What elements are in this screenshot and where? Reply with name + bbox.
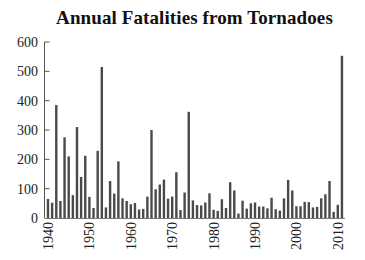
x-tick-label: 2010 [331, 222, 346, 250]
bar-1948 [80, 177, 82, 218]
bar-1966 [154, 189, 156, 218]
x-axis-labels: 19401950196019701980199020002010 [41, 222, 346, 250]
bar-1950 [88, 197, 90, 218]
bar-1992 [262, 207, 264, 218]
bar-1984 [229, 182, 231, 218]
bar-1940 [47, 199, 49, 218]
bar-1945 [68, 156, 70, 218]
bar-1983 [225, 208, 227, 218]
x-tick-label: 1950 [82, 222, 97, 250]
bar-1993 [266, 208, 268, 218]
bar-1956 [113, 194, 115, 218]
bar-1962 [138, 209, 140, 218]
bar-1985 [233, 190, 235, 218]
bar-1979 [208, 193, 210, 218]
y-tick-label: 200 [17, 152, 38, 167]
bar-1976 [196, 205, 198, 218]
bar-1943 [59, 201, 61, 218]
bar-1978 [204, 202, 206, 218]
bar-1995 [275, 209, 277, 218]
bar-1999 [291, 190, 293, 218]
x-tick-label: 1970 [165, 222, 180, 250]
axes [45, 42, 345, 219]
y-axis-labels: 0100200300400500600 [17, 35, 38, 226]
bar-2006 [320, 198, 322, 218]
bar-1969 [167, 199, 169, 218]
bar-1959 [125, 201, 127, 218]
x-tick-label: 1990 [248, 222, 263, 250]
bar-1971 [175, 172, 177, 218]
bar-1946 [72, 195, 74, 218]
bar-1997 [283, 198, 285, 218]
bar-1974 [188, 112, 190, 218]
bar-1990 [254, 202, 256, 218]
y-tick-label: 600 [17, 35, 38, 50]
bar-1958 [121, 198, 123, 218]
y-tick-label: 0 [31, 211, 38, 226]
bar-1941 [51, 203, 53, 218]
x-tick-label: 2000 [289, 222, 304, 250]
bar-1949 [84, 156, 86, 218]
bar-1998 [287, 180, 289, 218]
bar-1947 [76, 127, 78, 218]
x-tick-label: 1980 [207, 222, 222, 250]
bar-1960 [130, 204, 132, 218]
bar-2000 [295, 206, 297, 218]
bar-1970 [171, 197, 173, 218]
bar-1964 [146, 197, 148, 218]
y-tick-label: 400 [17, 94, 38, 109]
bar-1965 [150, 130, 152, 218]
bar-1953 [101, 67, 103, 218]
bar-1973 [183, 192, 185, 218]
y-tick-label: 100 [17, 182, 38, 197]
bar-2001 [299, 206, 301, 218]
bar-2009 [332, 212, 334, 218]
bars [47, 56, 343, 218]
bar-1987 [241, 201, 243, 218]
y-tick-label: 300 [17, 123, 38, 138]
bar-1989 [250, 203, 252, 218]
bar-1986 [237, 214, 239, 218]
bar-1988 [246, 209, 248, 218]
x-tick-label: 1940 [41, 222, 56, 250]
bar-1963 [142, 209, 144, 218]
bar-1996 [279, 211, 281, 218]
bar-1955 [109, 181, 111, 218]
bar-1975 [192, 200, 194, 218]
bar-1944 [63, 137, 65, 218]
bar-2008 [328, 181, 330, 218]
bar-2007 [324, 194, 326, 218]
bar-1981 [217, 211, 219, 218]
bar-1994 [270, 198, 272, 218]
bar-1967 [159, 185, 161, 218]
bar-1952 [96, 151, 98, 218]
bar-1977 [200, 205, 202, 218]
bar-2005 [316, 207, 318, 218]
y-tick-label: 500 [17, 64, 38, 79]
bar-1954 [105, 207, 107, 218]
bar-2003 [308, 202, 310, 218]
bar-1942 [55, 105, 57, 218]
bar-1961 [134, 203, 136, 218]
bar-chart: 19401950196019701980199020002010 0100200… [0, 0, 365, 260]
bar-1982 [221, 199, 223, 218]
bar-1991 [258, 207, 260, 218]
bar-1980 [212, 210, 214, 218]
x-tick-label: 1960 [124, 222, 139, 250]
bar-2011 [341, 56, 343, 218]
bar-1972 [179, 210, 181, 218]
bar-2004 [312, 207, 314, 218]
bar-2010 [337, 205, 339, 218]
bar-1951 [92, 208, 94, 218]
bar-1957 [117, 161, 119, 218]
bar-1968 [163, 180, 165, 218]
bar-2002 [303, 202, 305, 218]
